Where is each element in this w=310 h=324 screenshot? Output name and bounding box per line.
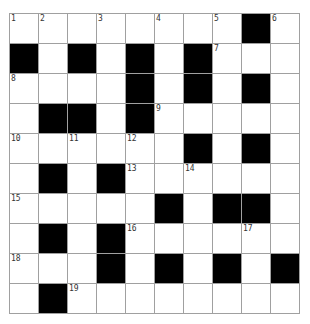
crossword-cell[interactable]: 2 xyxy=(39,14,68,44)
black-cell xyxy=(213,254,242,284)
crossword-cell[interactable] xyxy=(10,104,39,134)
black-cell xyxy=(242,74,271,104)
crossword-cell[interactable] xyxy=(155,164,184,194)
crossword-cell[interactable] xyxy=(213,134,242,164)
crossword-cell[interactable] xyxy=(10,164,39,194)
crossword-cell[interactable]: 17 xyxy=(242,224,271,254)
crossword-cell[interactable] xyxy=(126,254,155,284)
crossword-cell[interactable] xyxy=(126,194,155,224)
crossword-cell[interactable]: 3 xyxy=(97,14,126,44)
crossword-cell[interactable] xyxy=(155,44,184,74)
clue-number: 13 xyxy=(127,164,137,173)
clue-number: 7 xyxy=(214,44,219,53)
black-cell xyxy=(126,104,155,134)
crossword-cell[interactable] xyxy=(271,164,300,194)
crossword-cell[interactable] xyxy=(126,14,155,44)
crossword-cell[interactable] xyxy=(242,284,271,314)
crossword-cell[interactable] xyxy=(184,104,213,134)
clue-number: 2 xyxy=(40,14,45,23)
crossword-cell[interactable]: 15 xyxy=(10,194,39,224)
black-cell xyxy=(155,254,184,284)
crossword-cell[interactable] xyxy=(242,254,271,284)
crossword-cell[interactable] xyxy=(155,284,184,314)
crossword-cell[interactable] xyxy=(271,74,300,104)
crossword-cell[interactable] xyxy=(155,224,184,254)
crossword-cell[interactable] xyxy=(213,74,242,104)
crossword-cell[interactable]: 12 xyxy=(126,134,155,164)
black-cell xyxy=(242,14,271,44)
crossword-cell[interactable] xyxy=(68,74,97,104)
crossword-cell[interactable]: 16 xyxy=(126,224,155,254)
crossword-cell[interactable] xyxy=(184,14,213,44)
clue-number: 8 xyxy=(11,74,16,83)
crossword-cell[interactable]: 10 xyxy=(10,134,39,164)
crossword-cell[interactable] xyxy=(271,224,300,254)
crossword-cell[interactable] xyxy=(97,44,126,74)
crossword-cell[interactable] xyxy=(271,104,300,134)
black-cell xyxy=(155,194,184,224)
black-cell xyxy=(271,254,300,284)
clue-number: 12 xyxy=(127,134,137,143)
crossword-cell[interactable]: 13 xyxy=(126,164,155,194)
clue-number: 17 xyxy=(243,224,253,233)
crossword-cell[interactable] xyxy=(68,254,97,284)
crossword-cell[interactable] xyxy=(271,44,300,74)
black-cell xyxy=(39,104,68,134)
crossword-cell[interactable] xyxy=(68,224,97,254)
crossword-cell[interactable] xyxy=(242,164,271,194)
crossword-cell[interactable]: 7 xyxy=(213,44,242,74)
black-cell xyxy=(68,104,97,134)
crossword-cell[interactable]: 5 xyxy=(213,14,242,44)
crossword-cell[interactable] xyxy=(97,134,126,164)
crossword-cell[interactable] xyxy=(97,104,126,134)
crossword-cell[interactable] xyxy=(97,74,126,104)
crossword-cell[interactable]: 14 xyxy=(184,164,213,194)
clue-number: 3 xyxy=(98,14,103,23)
crossword-cell[interactable] xyxy=(184,194,213,224)
crossword-cell[interactable] xyxy=(39,194,68,224)
crossword-cell[interactable] xyxy=(10,284,39,314)
crossword-cell[interactable] xyxy=(68,14,97,44)
crossword-cell[interactable]: 11 xyxy=(68,134,97,164)
crossword-cell[interactable] xyxy=(213,104,242,134)
black-cell xyxy=(68,44,97,74)
crossword-cell[interactable] xyxy=(10,224,39,254)
crossword-cell[interactable] xyxy=(242,44,271,74)
crossword-cell[interactable] xyxy=(184,254,213,284)
crossword-cell[interactable] xyxy=(184,284,213,314)
black-cell xyxy=(126,44,155,74)
black-cell xyxy=(184,74,213,104)
crossword-cell[interactable]: 1 xyxy=(10,14,39,44)
crossword-cell[interactable] xyxy=(39,44,68,74)
crossword-cell[interactable] xyxy=(126,284,155,314)
crossword-grid: 12345678910111213141516171819 xyxy=(9,13,300,314)
clue-number: 9 xyxy=(156,104,161,113)
crossword-cell[interactable]: 8 xyxy=(10,74,39,104)
crossword-cell[interactable] xyxy=(271,134,300,164)
crossword-cell[interactable] xyxy=(271,284,300,314)
crossword-cell[interactable] xyxy=(242,104,271,134)
crossword-cell[interactable] xyxy=(97,284,126,314)
crossword-cell[interactable] xyxy=(271,194,300,224)
crossword-cell[interactable] xyxy=(39,74,68,104)
crossword-cell[interactable] xyxy=(184,224,213,254)
crossword-cell[interactable] xyxy=(213,164,242,194)
crossword-cell[interactable] xyxy=(68,194,97,224)
crossword-cell[interactable] xyxy=(213,284,242,314)
black-cell xyxy=(213,194,242,224)
crossword-cell[interactable]: 19 xyxy=(68,284,97,314)
clue-number: 14 xyxy=(185,164,195,173)
black-cell xyxy=(39,284,68,314)
crossword-cell[interactable]: 9 xyxy=(155,104,184,134)
crossword-cell[interactable] xyxy=(39,134,68,164)
crossword-cell[interactable]: 18 xyxy=(10,254,39,284)
crossword-cell[interactable] xyxy=(155,134,184,164)
crossword-cell[interactable] xyxy=(97,194,126,224)
crossword-cell[interactable]: 4 xyxy=(155,14,184,44)
crossword-cell[interactable] xyxy=(68,164,97,194)
crossword-cell[interactable] xyxy=(213,224,242,254)
crossword-cell[interactable] xyxy=(155,74,184,104)
crossword-cell[interactable] xyxy=(39,254,68,284)
clue-number: 10 xyxy=(11,134,21,143)
crossword-cell[interactable]: 6 xyxy=(271,14,300,44)
